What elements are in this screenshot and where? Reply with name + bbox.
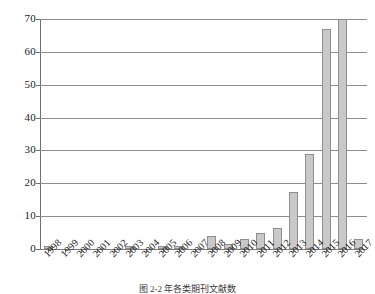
y-tick-label: 0: [2, 243, 36, 254]
bar: [338, 19, 347, 249]
y-tick-label: 60: [2, 46, 36, 57]
bar: [322, 29, 331, 249]
y-tick-label: 50: [2, 79, 36, 90]
plot-area: [40, 19, 367, 249]
y-axis: 010203040506070: [0, 0, 36, 294]
y-tick-label: 70: [2, 13, 36, 24]
bar-chart: 010203040506070 199819992000200120022003…: [0, 0, 375, 294]
bar: [305, 154, 314, 249]
y-tick-label: 20: [2, 177, 36, 188]
y-tick-label: 30: [2, 144, 36, 155]
y-tick-label: 40: [2, 112, 36, 123]
bar-series: [40, 19, 367, 249]
figure-caption: 图 2-2 年各类期刊文献数: [0, 284, 375, 294]
x-axis-labels: 1998199920002001200220032004200520062007…: [40, 252, 367, 284]
y-tick-label: 10: [2, 210, 36, 221]
